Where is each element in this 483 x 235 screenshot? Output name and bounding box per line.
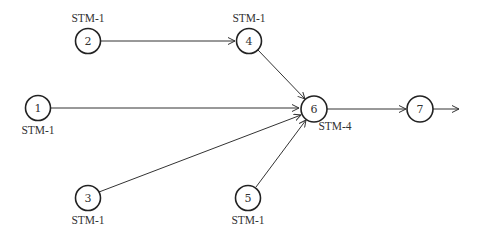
node-number: 1 (35, 102, 42, 115)
network-diagram: 1 STM-1 2 STM-1 3 STM-1 4 STM-1 5 STM-1 … (0, 0, 483, 235)
node-label: STM-4 (318, 120, 351, 132)
node-label: STM-1 (71, 12, 104, 24)
edges (50, 41, 459, 192)
node-label: STM-1 (71, 214, 104, 226)
node-label: STM-1 (231, 214, 264, 226)
node-label: STM-1 (232, 12, 265, 24)
node-number: 3 (85, 192, 92, 205)
node-5: 5 STM-1 (231, 186, 264, 227)
node-6: 6 STM-4 (301, 96, 352, 132)
edge-5-6 (256, 120, 306, 187)
edge-3-6 (99, 115, 301, 192)
node-1: 1 STM-1 (21, 96, 54, 137)
node-number: 4 (246, 35, 253, 48)
node-label: STM-1 (21, 124, 54, 136)
node-4: 4 STM-1 (232, 12, 265, 54)
node-7: 7 (407, 96, 433, 122)
node-number: 7 (417, 103, 424, 116)
edge-4-6 (258, 50, 305, 99)
node-number: 5 (245, 192, 252, 205)
node-2: 2 STM-1 (71, 12, 104, 54)
node-number: 6 (311, 103, 318, 116)
node-number: 2 (85, 35, 92, 48)
diagram-svg: 1 STM-1 2 STM-1 3 STM-1 4 STM-1 5 STM-1 … (0, 0, 483, 235)
